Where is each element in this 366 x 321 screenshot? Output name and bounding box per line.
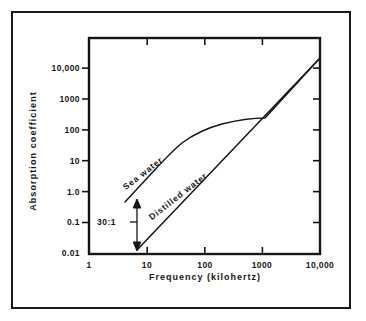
series-distilled-water xyxy=(137,58,320,250)
plot-area: 10,000 1000 100 10 1.0 0.1 0.01 1 10 100… xyxy=(0,0,366,321)
plot-frame xyxy=(89,38,320,254)
y-tick-label-0.01: 0.01 xyxy=(26,248,80,258)
x-tick-label-1: 1 xyxy=(86,260,91,270)
x-tick-label-10: 10 xyxy=(142,260,152,270)
ratio-annotation-label: 30:1 xyxy=(97,217,116,227)
series-sea-water xyxy=(125,58,320,202)
figure-container: 10,000 1000 100 10 1.0 0.1 0.01 1 10 100… xyxy=(0,0,366,321)
x-axis-title: Frequency (kilohertz) xyxy=(89,272,321,282)
ratio-arrow-icon xyxy=(130,199,141,251)
x-tick-label-10000: 10,000 xyxy=(306,260,334,270)
x-tick-label-1000: 1000 xyxy=(252,260,273,270)
x-tick-label-100: 100 xyxy=(197,260,212,270)
y-axis-title: Absorption coefficient xyxy=(28,71,38,231)
